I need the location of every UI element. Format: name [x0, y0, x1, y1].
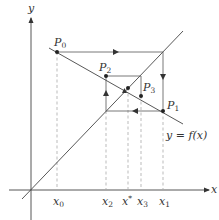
identity-line [22, 31, 183, 199]
arrow-right-icon [113, 49, 119, 55]
y-axis-label: y [27, 2, 35, 15]
x-axis-label: x [211, 183, 218, 196]
arrow-down-icon [160, 74, 166, 80]
point-p3 [139, 94, 143, 98]
arrow-left-icon [132, 108, 138, 114]
tick-x2: x2 [102, 195, 113, 209]
tick-xstar: x* [122, 194, 132, 208]
x-axis: x [9, 183, 218, 196]
point-p0 [55, 50, 59, 54]
fixed-point [126, 86, 130, 90]
label-p0: P0 [53, 36, 66, 50]
tick-x3: x3 [137, 195, 148, 209]
tick-x1: x1 [159, 195, 170, 209]
curve-label: y = f(x) [165, 129, 207, 142]
arrow-up-icon [103, 90, 109, 96]
label-p1: P1 [166, 99, 179, 113]
label-p3: P3 [142, 81, 155, 95]
cobweb-diagram: y x P0 P1 [0, 0, 219, 220]
label-p2: P2 [98, 61, 111, 75]
tick-x0: x0 [53, 195, 64, 209]
point-p1 [161, 109, 165, 113]
